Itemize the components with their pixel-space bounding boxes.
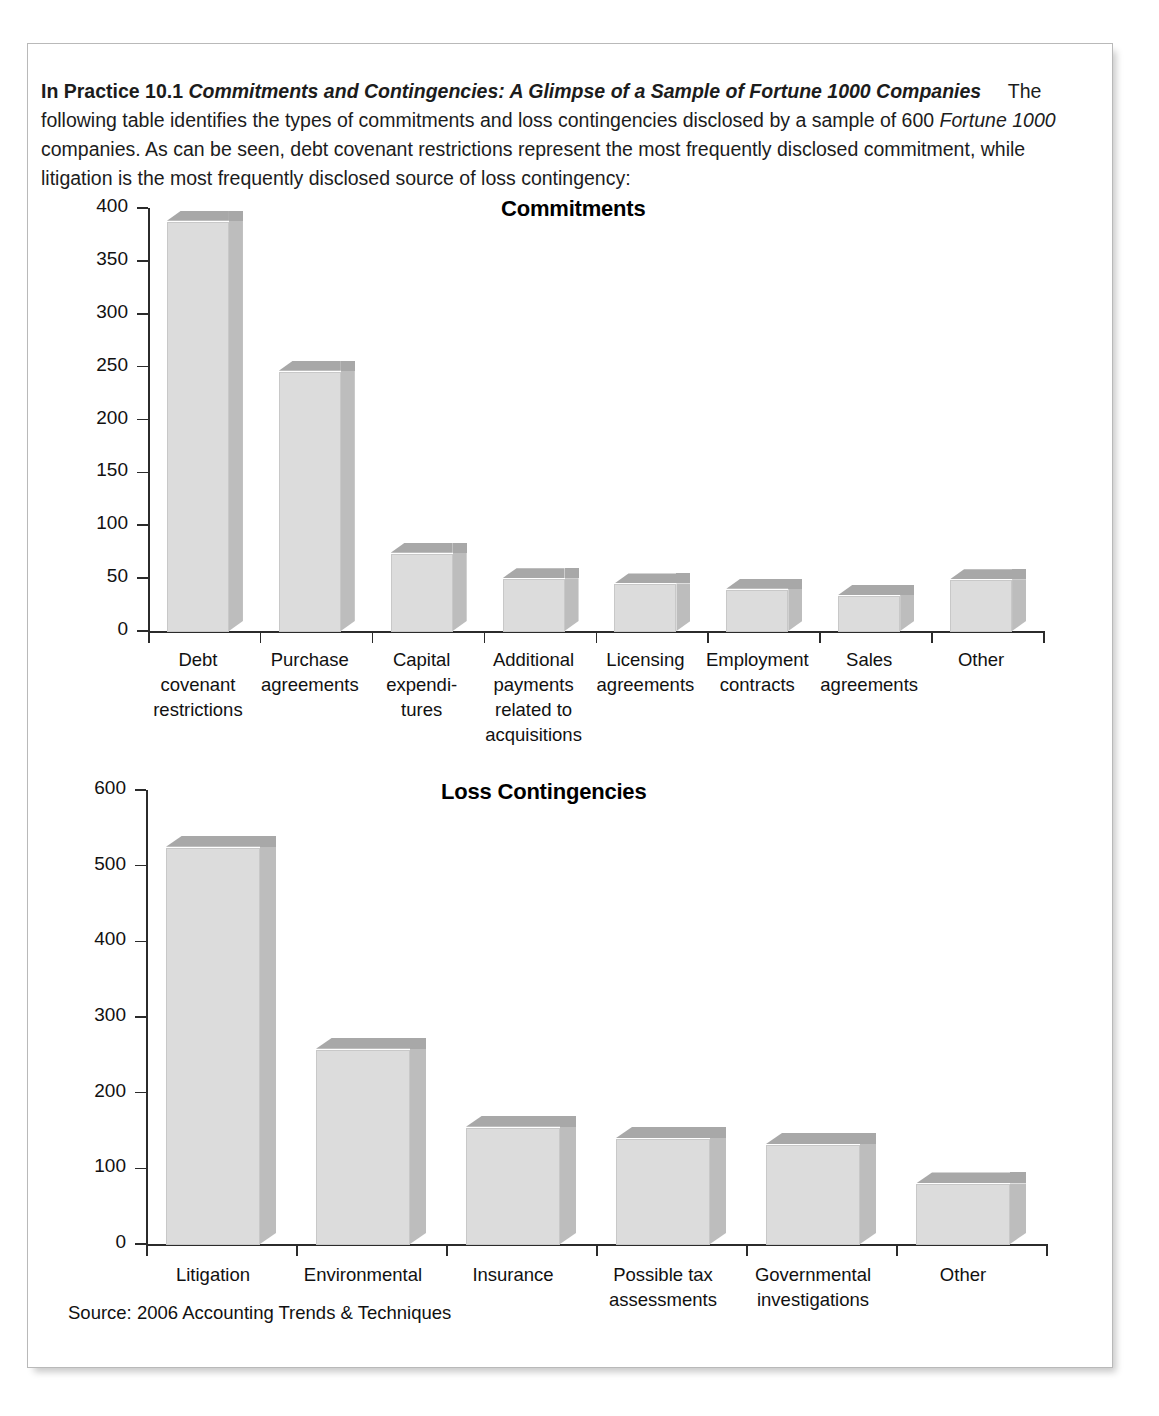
bar-front-face (950, 580, 1012, 632)
y-axis-tick-label: 0 (66, 618, 128, 640)
x-axis-category-label: Litigation (126, 1262, 300, 1287)
y-axis-tick (135, 865, 146, 867)
y-axis-tick (135, 941, 146, 943)
bar-top-face (391, 543, 453, 553)
x-axis-category-label: Other (915, 647, 1047, 672)
bar-front-face (316, 1050, 410, 1245)
bar (279, 208, 355, 632)
y-axis-tick (137, 630, 148, 632)
y-axis-tick (135, 1092, 146, 1094)
y-axis-line (148, 208, 150, 633)
bar (391, 208, 467, 632)
bar-top-face-right (260, 836, 276, 847)
y-axis-tick-label: 300 (66, 301, 128, 323)
y-axis-tick-label: 350 (66, 248, 128, 270)
intro-label: In Practice 10.1 (41, 80, 183, 102)
bar-front-face (614, 584, 676, 632)
bar (838, 208, 914, 632)
bar-front-face (503, 579, 565, 632)
bar-top-face-right (788, 579, 802, 589)
bar (466, 790, 576, 1245)
y-axis-tick (137, 577, 148, 579)
intro-body-2: companies. As can be seen, debt covenant… (41, 138, 1025, 189)
bar-top-face (316, 1038, 410, 1049)
y-axis-tick-label: 400 (66, 195, 128, 217)
y-axis-tick (137, 207, 148, 209)
bar-top-face-right (860, 1133, 876, 1144)
bar-top-face (950, 569, 1012, 579)
x-axis-tick (596, 1244, 598, 1256)
bar (167, 208, 243, 632)
bar (503, 208, 579, 632)
x-axis-category-label: Insurance (426, 1262, 600, 1287)
bar-top-face-right (900, 585, 914, 595)
y-axis-tick-label: 50 (66, 565, 128, 587)
bar-side-face (900, 595, 914, 631)
x-axis-tick (484, 631, 486, 643)
x-axis-tick (148, 631, 150, 643)
bar-side-face (341, 371, 355, 631)
bar-top-face (167, 211, 229, 221)
y-axis-tick (135, 1243, 146, 1245)
y-axis-tick-label: 150 (66, 459, 128, 481)
bar (766, 790, 876, 1245)
bar-side-face (676, 583, 690, 631)
x-axis-tick (146, 1244, 148, 1256)
bar (726, 208, 802, 632)
y-axis-line (146, 790, 148, 1246)
bar (616, 790, 726, 1245)
bar-top-face (916, 1172, 1010, 1183)
y-axis-tick (137, 472, 148, 474)
x-axis-tick (707, 631, 709, 643)
x-axis-tick (596, 631, 598, 643)
in-practice-panel: In Practice 10.1 Commitments and Conting… (27, 43, 1113, 1368)
y-axis-tick-label: 0 (64, 1231, 126, 1253)
bar-top-face-right (229, 211, 243, 221)
bar-top-face (466, 1116, 560, 1127)
x-axis-tick (446, 1244, 448, 1256)
bar-side-face (410, 1049, 426, 1244)
bar-top-face (166, 836, 260, 847)
bar-front-face (838, 596, 900, 632)
x-axis-category-label: Possible tax assessments (576, 1262, 750, 1312)
x-axis-category-label: Governmental investigations (726, 1262, 900, 1312)
bar-front-face (916, 1184, 1010, 1245)
chart-loss-contingencies-plot: 0100200300400500600LitigationEnvironment… (146, 790, 1046, 1244)
bar (614, 208, 690, 632)
bar-side-face (229, 221, 243, 631)
bar-top-face (279, 361, 341, 371)
bar-top-face-right (410, 1038, 426, 1049)
bar-side-face (560, 1127, 576, 1244)
y-axis-tick (135, 789, 146, 791)
bar-top-face (726, 579, 788, 589)
chart-commitments-plot: 050100150200250300350400Debt covenant re… (148, 208, 1043, 631)
bar-top-face-right (1012, 569, 1026, 579)
bar-side-face (260, 847, 276, 1244)
intro-body-italic: Fortune 1000 (940, 109, 1056, 131)
bar-front-face (616, 1139, 710, 1245)
x-axis-category-label: Environmental (276, 1262, 450, 1287)
source-note: Source: 2006 Accounting Trends & Techniq… (68, 1302, 451, 1324)
y-axis-tick (135, 1016, 146, 1018)
y-axis-tick-label: 400 (64, 928, 126, 950)
x-axis-tick (372, 631, 374, 643)
y-axis-tick (137, 260, 148, 262)
bar (166, 790, 276, 1245)
x-axis-tick (819, 631, 821, 643)
y-axis-tick-label: 250 (66, 354, 128, 376)
bar-front-face (726, 590, 788, 632)
y-axis-tick (137, 313, 148, 315)
bar-front-face (279, 372, 341, 632)
bar-side-face (710, 1138, 726, 1244)
bar-top-face-right (341, 361, 355, 371)
bar-top-face-right (453, 543, 467, 553)
bar-top-face (766, 1133, 860, 1144)
y-axis-tick (137, 366, 148, 368)
bar-side-face (565, 578, 579, 631)
y-axis-tick-label: 100 (64, 1155, 126, 1177)
intro-title: Commitments and Contingencies: A Glimpse… (188, 80, 981, 102)
bar-top-face (838, 585, 900, 595)
bar (950, 208, 1026, 632)
y-axis-tick-label: 200 (66, 407, 128, 429)
bar-side-face (860, 1144, 876, 1244)
